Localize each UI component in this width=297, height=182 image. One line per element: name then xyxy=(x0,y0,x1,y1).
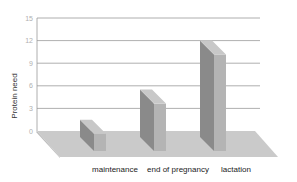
y-tick-label: 3 xyxy=(29,105,33,112)
bar-lactation xyxy=(200,41,226,151)
y-tick-label: 6 xyxy=(29,82,33,89)
protein-need-chart: 03691215 Protein need maintenanceend of … xyxy=(0,0,297,182)
y-axis-ticks: 03691215 xyxy=(25,15,33,135)
y-tick-label: 0 xyxy=(29,128,33,135)
x-axis-categories: maintenanceend of pregnancylactation xyxy=(92,165,251,174)
x-category-label: maintenance xyxy=(92,165,138,174)
x-category-label: lactation xyxy=(221,165,251,174)
y-tick-label: 12 xyxy=(25,37,33,44)
y-axis-label: Protein need xyxy=(10,73,19,118)
y-tick-label: 15 xyxy=(25,15,33,22)
x-category-label: end of pregnancy xyxy=(147,165,209,174)
bars xyxy=(80,41,226,151)
y-tick-label: 9 xyxy=(29,60,33,67)
